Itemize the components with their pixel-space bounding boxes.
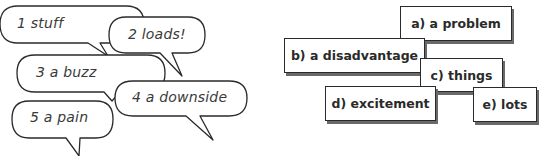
speech-bubble-5: 5 a pain: [30, 109, 88, 125]
speech-bubble-4: 4 a downside: [132, 89, 227, 105]
speech-bubble-group: 1 stuff 2 loads! 3 a buzz 4 a downside 5…: [0, 0, 270, 156]
answer-box-d: d) excitement: [325, 86, 436, 121]
answer-box-a: a) a problem: [400, 6, 512, 41]
answer-box-e: e) lots: [473, 87, 537, 122]
speech-bubble-3: 3 a buzz: [36, 64, 96, 80]
answer-box-b: b) a disadvantage: [284, 38, 425, 73]
speech-bubble-1: 1 stuff: [17, 15, 63, 31]
speech-bubble-2: 2 loads!: [128, 26, 186, 42]
